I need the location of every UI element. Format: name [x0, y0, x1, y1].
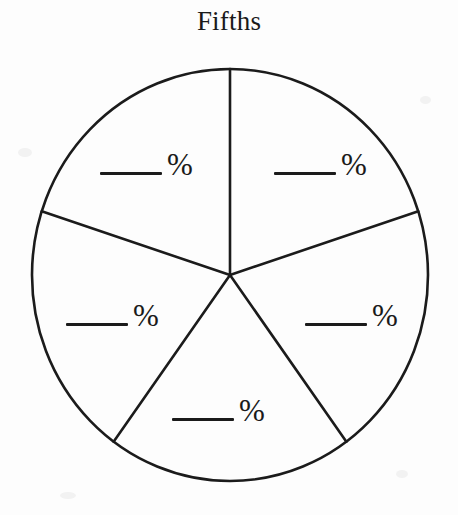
percent-sign-1: % — [341, 150, 367, 180]
percent-sign-5: % — [167, 150, 193, 180]
percent-sign-4: % — [133, 301, 159, 331]
slice-label-lower-left[interactable]: % — [66, 301, 159, 331]
answer-blank-line-2[interactable] — [305, 323, 367, 326]
slice-label-top-right[interactable]: % — [274, 150, 367, 180]
slice-label-lower-right[interactable]: % — [305, 301, 398, 331]
answer-blank-line-1[interactable] — [274, 172, 336, 175]
answer-blank-line-5[interactable] — [100, 172, 162, 175]
answer-blank-line-4[interactable] — [66, 323, 128, 326]
worksheet-page: Fifths % % % % % — [0, 0, 458, 515]
percent-sign-2: % — [372, 301, 398, 331]
slice-label-bottom[interactable]: % — [172, 396, 265, 426]
pie-chart-figure — [0, 0, 458, 515]
answer-blank-line-3[interactable] — [172, 418, 234, 421]
percent-sign-3: % — [239, 396, 265, 426]
slice-label-top-left[interactable]: % — [100, 150, 193, 180]
